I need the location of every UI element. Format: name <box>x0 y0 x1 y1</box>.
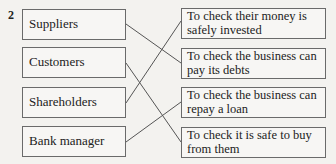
left-box-suppliers: Suppliers <box>22 9 126 40</box>
link-bank-manager-loan <box>126 102 181 142</box>
left-box-bank-manager: Bank manager <box>22 126 126 157</box>
right-box-pay-debts: To check the business can pay its debts <box>181 48 326 79</box>
right-box-repay-loan: To check the business can repay a loan <box>181 87 326 118</box>
link-customers-safe-to-buy <box>126 63 181 142</box>
right-box-money-invested: To check their money is safely invested <box>181 8 326 39</box>
left-box-customers: Customers <box>22 47 126 78</box>
link-suppliers-debts <box>126 24 181 63</box>
left-box-shareholders: Shareholders <box>22 87 126 118</box>
right-box-safe-to-buy: To check it is safe to buy from them <box>181 127 326 158</box>
link-shareholders-invested <box>126 21 181 103</box>
